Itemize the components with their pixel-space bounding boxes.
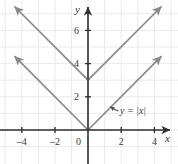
absolute-value-graph-figure: –4 –2 0 2 4 2 4 6 y x y = |x| [0, 0, 178, 164]
x-tick-label-2: 2 [119, 136, 124, 147]
x-tick-label-4: 4 [152, 136, 157, 147]
y-tick-label-2: 2 [74, 91, 79, 102]
x-tick-label-neg2: –2 [49, 136, 60, 147]
coordinate-plane-svg: –4 –2 0 2 4 2 4 6 y x y = |x| [0, 0, 178, 164]
y-axis-label: y [74, 3, 80, 15]
y-tick-label-6: 6 [74, 25, 79, 36]
curve-annotation-label: y = |x| [119, 105, 146, 116]
x-tick-label-neg4: –4 [16, 136, 27, 147]
y-tick-label-4: 4 [74, 58, 79, 69]
x-axis-label: x [164, 132, 170, 144]
x-tick-label-zero: 0 [76, 136, 81, 147]
